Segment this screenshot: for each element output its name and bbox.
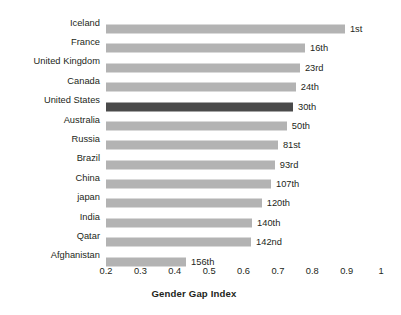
bar-row: Russia81st [0,130,401,149]
bar-row: Iceland1st [0,14,401,33]
bar-value-label: 1st [350,24,362,33]
category-label: japan [0,194,100,203]
category-label: Canada [0,77,100,86]
bar-value-label: 93rd [280,160,299,169]
bar-and-label: 24th [106,77,319,86]
bar-and-label: 23rd [106,58,323,67]
bar-value-label: 23rd [305,63,324,72]
bar-and-label: 50th [106,116,310,125]
bar-value-label: 50th [292,121,310,130]
bar-and-label: 107th [106,174,299,183]
x-axis-tick: 0.4 [168,265,181,277]
bar-and-label: 156th [106,252,214,261]
bar-and-label: 93rd [106,155,298,164]
gender-gap-index-bar-chart: Iceland1stFrance16thUnited Kingdom23rdCa… [0,0,401,315]
bar [106,238,251,247]
bar [106,218,252,227]
bar [106,180,271,189]
bar [106,63,300,72]
x-axis-tick-labels: 0.20.30.40.50.60.70.80.91 [0,265,401,279]
x-axis-tick: 0.5 [203,265,216,277]
bar [106,141,278,150]
x-axis-tick: 0.2 [100,265,113,277]
bar-row: Qatar142nd [0,227,401,246]
bar-and-label: 142nd [106,232,282,241]
bar-value-label: 30th [298,102,316,111]
x-axis-tick: 0.7 [271,265,284,277]
bar-and-label: 1st [106,19,362,28]
x-axis-tick: 0.6 [237,265,250,277]
category-label: France [0,38,100,47]
bar [106,121,287,130]
x-axis-title-text: Gender Gap Index [151,288,236,299]
bar-and-label: 16th [106,39,328,48]
bar [106,44,305,53]
bar-row: United Kingdom23rd [0,53,401,72]
category-label: Qatar [0,232,100,241]
bar-row: India140th [0,208,401,227]
category-label: Afghanistan [0,252,100,261]
bar-and-label: 120th [106,194,290,203]
x-axis-tick: 0.9 [340,265,353,277]
bar-and-label: 30th [106,97,316,106]
bar-and-label: 140th [106,213,280,222]
bar-row: Australia50th [0,111,401,130]
bar-value-label: 24th [301,83,319,92]
bar-value-label: 16th [310,44,328,53]
category-label: China [0,174,100,183]
bar [106,102,293,111]
category-label: Brazil [0,155,100,164]
x-axis-tick: 1 [378,265,383,277]
bar [106,24,345,33]
bar-value-label: 140th [257,218,280,227]
bar-row: China107th [0,169,401,188]
bar-row: Canada24th [0,72,401,91]
x-axis-tick: 0.8 [306,265,319,277]
bar [106,199,262,208]
bar [106,160,275,169]
category-label: Australia [0,116,100,125]
category-label: United States [0,97,100,106]
x-axis-tick: 0.3 [134,265,147,277]
category-label: United Kingdom [0,58,100,67]
bar-value-label: 81st [283,141,301,150]
category-label: Russia [0,135,100,144]
category-label: India [0,213,100,222]
bar-row: United States30th [0,92,401,111]
bar-row: japan120th [0,189,401,208]
category-label: Iceland [0,19,100,28]
x-axis-title: Gender Gap Index [0,288,401,299]
bar [106,83,296,92]
bar-and-label: 81st [106,136,300,145]
bar-value-label: 142nd [256,238,282,247]
bar-row: France16th [0,33,401,52]
bar-row: Brazil93rd [0,150,401,169]
bar-value-label: 107th [276,180,299,189]
chart-plot-area: Iceland1stFrance16thUnited Kingdom23rdCa… [0,14,401,266]
bar-value-label: 120th [267,199,290,208]
bar-row: Afghanistan156th [0,247,401,266]
